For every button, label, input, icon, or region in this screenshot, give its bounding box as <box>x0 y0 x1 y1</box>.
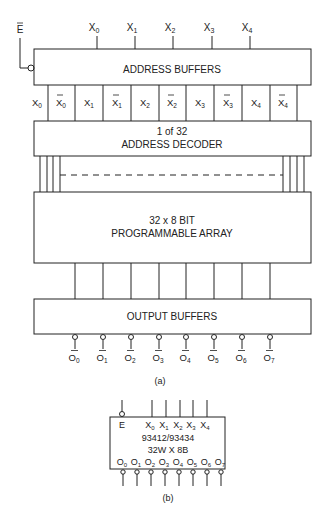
rom-block-diagram: E X0 X1 X2 X3 X4 ADDRESS BUFFERS X0 X0 X… <box>0 0 330 518</box>
caption-a: (a) <box>155 376 166 386</box>
buffer-output-labels: X0 X0 X1 X1 X2 X2 X3 X3 X4 X4 <box>32 97 288 109</box>
svg-text:O7: O7 <box>263 352 274 364</box>
svg-text:X4: X4 <box>278 97 288 109</box>
svg-text:X1: X1 <box>159 420 169 431</box>
decoder-label-line2: ADDRESS DECODER <box>121 139 222 150</box>
svg-text:X3: X3 <box>204 22 215 34</box>
svg-text:O1: O1 <box>96 352 107 364</box>
svg-text:O5: O5 <box>187 457 198 468</box>
svg-text:X0: X0 <box>32 97 42 109</box>
svg-text:O1: O1 <box>131 457 142 468</box>
svg-text:O3: O3 <box>152 352 163 364</box>
svg-text:X0: X0 <box>89 22 100 34</box>
array-label-line2: PROGRAMMABLE ARRAY <box>111 228 233 239</box>
chip-organization: 32W X 8B <box>148 445 189 455</box>
decoder-label-line1: 1 of 32 <box>157 126 188 137</box>
svg-text:O4: O4 <box>173 457 184 468</box>
svg-text:X1: X1 <box>112 97 122 109</box>
chip-enable-label: E <box>119 420 125 430</box>
chip-enable-bubble <box>120 412 125 417</box>
svg-text:O7: O7 <box>215 457 226 468</box>
output-buffers-label: OUTPUT BUFFERS <box>127 311 218 322</box>
svg-text:O0: O0 <box>68 352 79 364</box>
svg-text:X4: X4 <box>242 22 253 34</box>
svg-text:O2: O2 <box>124 352 135 364</box>
svg-text:X2: X2 <box>165 22 176 34</box>
array-label-line1: 32 x 8 BIT <box>149 215 195 226</box>
output-labels-a: O0 O1 O2 O3 O4 O5 O6 O7 <box>68 352 274 364</box>
svg-text:X3: X3 <box>186 420 196 431</box>
address-input-labels: X0 X1 X2 X3 X4 <box>89 22 253 34</box>
enable-label: E <box>17 24 24 35</box>
svg-text:X2: X2 <box>167 97 177 109</box>
svg-text:X0: X0 <box>56 97 66 109</box>
svg-text:X3: X3 <box>223 97 233 109</box>
svg-text:O6: O6 <box>235 352 246 364</box>
address-buffers-label: ADDRESS BUFFERS <box>123 64 221 75</box>
chip-part-number: 93412/93434 <box>142 433 195 443</box>
chip-output-labels: O0 O1 O2 O3 O4 O5 O6 O7 <box>117 457 226 468</box>
svg-text:X0: X0 <box>145 420 155 431</box>
svg-text:X1: X1 <box>84 97 94 109</box>
chip-input-labels: X0 X1 X2 X3 X4 <box>145 420 210 431</box>
enable-line <box>20 38 28 68</box>
svg-text:X2: X2 <box>140 97 150 109</box>
svg-text:X4: X4 <box>251 97 261 109</box>
svg-text:O3: O3 <box>159 457 170 468</box>
svg-text:X2: X2 <box>173 420 183 431</box>
svg-text:O0: O0 <box>117 457 128 468</box>
enable-inverter-bubble <box>28 65 34 71</box>
svg-text:X1: X1 <box>127 22 138 34</box>
svg-text:X4: X4 <box>200 420 210 431</box>
svg-text:O6: O6 <box>201 457 212 468</box>
svg-text:O4: O4 <box>179 352 190 364</box>
svg-text:O5: O5 <box>207 352 218 364</box>
caption-b: (b) <box>163 493 174 503</box>
output-pins-b <box>121 470 223 486</box>
svg-text:O2: O2 <box>145 457 156 468</box>
svg-text:X3: X3 <box>195 97 205 109</box>
output-pins-a <box>73 335 273 350</box>
